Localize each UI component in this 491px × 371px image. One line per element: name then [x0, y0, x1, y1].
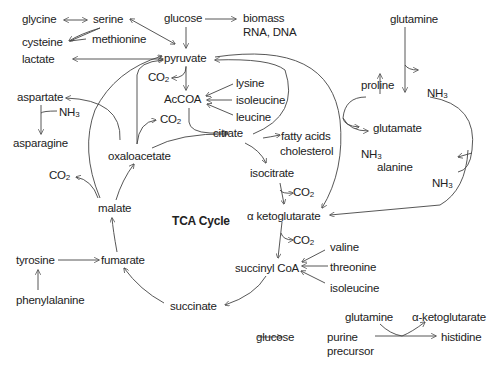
node-malate: malate — [98, 202, 131, 215]
node-threonine: threonine — [330, 261, 376, 274]
node-fumarate: fumarate — [101, 254, 145, 267]
node-nh3-glutamine: NH3 — [427, 87, 447, 102]
node-isocitrate: isocitrate — [250, 167, 294, 180]
node-alanine: alanine — [377, 161, 413, 174]
node-citrate: citrate — [213, 127, 243, 140]
node-lysine: lysine — [236, 77, 264, 90]
node-succinate: succinate — [170, 300, 217, 313]
node-alpha-kg-bottom: α-ketoglutarate — [412, 311, 486, 324]
node-glutamine-bottom: glutamine — [345, 311, 393, 324]
node-fatty-acids: fatty acids — [281, 130, 331, 143]
node-tyrosine: tyrosine — [16, 254, 55, 267]
node-succinyl-coa: succinyl CoA — [235, 262, 299, 275]
node-cholesterol: cholesterol — [280, 145, 333, 158]
node-valine: valine — [330, 241, 359, 254]
node-biomass: biomass — [243, 12, 284, 25]
node-cysteine: cysteine — [22, 36, 63, 49]
node-accoa: AcCOA — [164, 93, 201, 106]
node-nh3-right: NH3 — [432, 177, 452, 192]
node-methionine: methionine — [92, 33, 146, 46]
node-proline: proline — [361, 79, 394, 92]
node-isoleucine-accoa: isoleucine — [236, 94, 285, 107]
node-co2-oxaloacetate: CO2 — [160, 113, 181, 128]
node-co2-pyruvate: CO2 — [148, 71, 169, 86]
node-purine: purine — [327, 331, 358, 344]
node-oxaloacetate: oxaloacetate — [108, 150, 171, 163]
node-co2-akg: CO2 — [293, 234, 314, 249]
node-glutamine-top: glutamine — [390, 13, 438, 26]
node-precursor: precursor — [327, 345, 374, 358]
node-asparagine: asparagine — [13, 137, 68, 150]
node-nh3-aspartate: NH3 — [59, 106, 79, 121]
node-co2-isocitrate: CO2 — [293, 186, 314, 201]
node-rna-dna: RNA, DNA — [243, 26, 296, 39]
diagram-title: TCA Cycle — [172, 215, 230, 228]
node-lactate: lactate — [22, 53, 54, 66]
node-histidine: histidine — [441, 331, 481, 344]
node-isoleucine-succ: isoleucine — [330, 282, 379, 295]
node-glycine: glycine — [22, 13, 56, 26]
tca-cycle-diagram: glycine serine cysteine methionine lacta… — [0, 0, 491, 371]
node-leucine: leucine — [236, 111, 271, 124]
node-pyruvate: pyruvate — [164, 52, 207, 65]
node-co2-malate: CO2 — [49, 169, 70, 184]
node-aspartate: aspartate — [17, 91, 63, 104]
node-serine: serine — [93, 13, 123, 26]
node-glucose-bottom: glucose — [256, 331, 294, 344]
node-alpha-ketoglutarate: α ketoglutarate — [247, 210, 320, 223]
node-glucose-top: glucose — [164, 12, 202, 25]
node-phenylalanine: phenylalanine — [16, 294, 84, 307]
node-glutamate: glutamate — [373, 122, 422, 135]
